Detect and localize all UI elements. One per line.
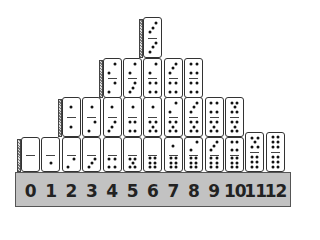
pip-dot bbox=[236, 161, 239, 164]
domino-5-6 bbox=[245, 132, 264, 172]
domino-half bbox=[146, 156, 159, 171]
pip-dot bbox=[128, 129, 131, 132]
sum-labels: 0123456789101112 bbox=[20, 178, 286, 204]
domino-3-4 bbox=[164, 58, 183, 98]
pip-dot bbox=[276, 146, 279, 149]
sum-label: 3 bbox=[81, 178, 101, 204]
domino-half bbox=[146, 79, 159, 96]
pip-dot bbox=[111, 106, 114, 109]
pip-dot bbox=[151, 46, 154, 49]
pip-dot bbox=[93, 121, 96, 124]
pip-dot bbox=[175, 90, 178, 93]
domino-half bbox=[126, 118, 139, 135]
pip-dot bbox=[236, 130, 239, 133]
domino-half bbox=[269, 153, 282, 170]
pip-dot bbox=[175, 130, 178, 133]
domino-2-5 bbox=[164, 97, 183, 137]
pip-dot bbox=[253, 141, 256, 144]
pip-dot bbox=[195, 90, 198, 93]
pip-dot bbox=[149, 130, 152, 133]
pip-dot bbox=[128, 157, 131, 160]
pip-dot bbox=[271, 146, 274, 149]
domino-1-2 bbox=[82, 97, 101, 137]
domino-2-3 bbox=[123, 58, 142, 98]
pip-dot bbox=[131, 161, 134, 164]
pip-dot bbox=[271, 141, 274, 144]
pip-dot bbox=[195, 166, 198, 169]
pip-dot bbox=[230, 120, 233, 123]
pip-dot bbox=[175, 82, 178, 85]
pip-dot bbox=[256, 136, 259, 139]
domino-1-5 bbox=[143, 97, 162, 137]
pip-dot bbox=[134, 63, 137, 66]
pip-dot bbox=[230, 141, 233, 144]
pip-dot bbox=[271, 155, 274, 158]
domino-half bbox=[187, 139, 200, 154]
pip-dot bbox=[195, 82, 198, 85]
pip-dot bbox=[251, 136, 254, 139]
domino-0-6 bbox=[143, 137, 162, 172]
domino-half bbox=[167, 156, 180, 171]
domino-half bbox=[146, 99, 159, 116]
pip-dot bbox=[189, 148, 192, 151]
pip-dot bbox=[189, 111, 192, 114]
domino-half bbox=[167, 139, 180, 154]
domino-half bbox=[208, 139, 221, 154]
pip-dot bbox=[189, 63, 192, 66]
domino-half bbox=[24, 156, 37, 171]
pip-dot bbox=[230, 161, 233, 164]
domino-half bbox=[106, 79, 119, 96]
pip-dot bbox=[149, 120, 152, 123]
pip-dot bbox=[87, 166, 90, 169]
pip-dot bbox=[128, 71, 131, 74]
pip-dot bbox=[169, 157, 172, 160]
domino-half bbox=[106, 60, 119, 77]
domino-2-6 bbox=[184, 137, 203, 172]
domino-half bbox=[146, 60, 159, 77]
pip-dot bbox=[90, 161, 93, 164]
domino-half bbox=[85, 156, 98, 171]
pip-dot bbox=[215, 161, 218, 164]
pip-dot bbox=[215, 140, 218, 143]
pip-dot bbox=[134, 129, 137, 132]
domino-1-4 bbox=[123, 97, 142, 137]
pip-dot bbox=[271, 160, 274, 163]
pip-dot bbox=[276, 136, 279, 139]
domino-half bbox=[126, 60, 139, 77]
pip-dot bbox=[172, 125, 175, 128]
domino-1-1 bbox=[62, 97, 81, 137]
domino-4-6 bbox=[225, 137, 244, 172]
pip-dot bbox=[215, 130, 218, 133]
domino-half bbox=[269, 134, 282, 151]
pip-dot bbox=[210, 166, 213, 169]
pip-dot bbox=[233, 125, 236, 128]
domino-half bbox=[146, 139, 159, 154]
pip-dot bbox=[151, 106, 154, 109]
pip-dot bbox=[251, 146, 254, 149]
pip-dot bbox=[149, 51, 152, 54]
pip-dot bbox=[276, 141, 279, 144]
pip-dot bbox=[230, 101, 233, 104]
sum-label: 2 bbox=[61, 178, 81, 204]
pip-dot bbox=[108, 158, 111, 161]
pip-dot bbox=[210, 157, 213, 160]
domino-side-shading bbox=[58, 99, 62, 137]
domino-6-6 bbox=[266, 132, 285, 172]
pip-dot bbox=[189, 120, 192, 123]
pip-dot bbox=[149, 90, 152, 93]
pip-dot bbox=[210, 130, 213, 133]
domino-half bbox=[126, 156, 139, 171]
pip-dot bbox=[195, 71, 198, 74]
pip-dot bbox=[113, 165, 116, 168]
pip-dot bbox=[108, 90, 111, 93]
domino-half bbox=[65, 99, 78, 116]
domino-half bbox=[228, 139, 241, 154]
domino-half bbox=[85, 139, 98, 154]
pip-dot bbox=[189, 82, 192, 85]
pip-dot bbox=[256, 165, 259, 168]
pip-dot bbox=[256, 155, 259, 158]
pip-dot bbox=[154, 166, 157, 169]
pip-dot bbox=[172, 145, 175, 148]
pip-dot bbox=[151, 125, 154, 128]
pip-dot bbox=[210, 110, 213, 113]
